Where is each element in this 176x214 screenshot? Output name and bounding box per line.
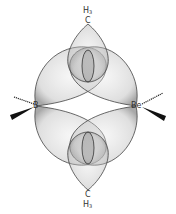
top-bridge-hydrogens-label: H3 bbox=[83, 7, 92, 15]
hydrogen-count: 3 bbox=[89, 203, 92, 209]
top-bridge-carbon-label: C bbox=[85, 17, 91, 25]
right-wedge-bond bbox=[142, 107, 166, 121]
right-center-atom-label: Be bbox=[131, 102, 141, 110]
left-center-atom-label: B bbox=[33, 102, 39, 110]
bottom-overlap-region bbox=[82, 132, 94, 164]
bottom-bridge-carbon-label: C bbox=[85, 191, 91, 199]
bottom-bridge-hydrogens-label: H3 bbox=[83, 201, 92, 209]
top-overlap-region bbox=[82, 50, 94, 82]
left-boron-bonds bbox=[10, 97, 34, 120]
orbital-diagram bbox=[0, 0, 176, 214]
left-wedge-bond bbox=[10, 107, 34, 120]
right-beryllium-bonds bbox=[142, 93, 166, 121]
hydrogen-count: 3 bbox=[89, 9, 92, 15]
left-hashed-bond bbox=[14, 97, 34, 104]
right-hashed-bond bbox=[142, 93, 163, 104]
